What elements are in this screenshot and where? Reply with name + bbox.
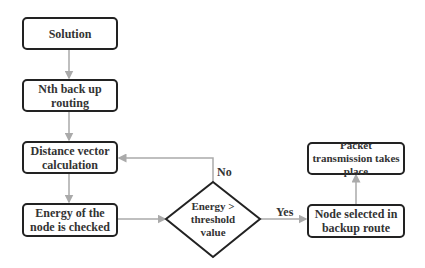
packet-transmission-node: Packet transmission takes place (307, 142, 405, 175)
yes-label: Yes (276, 205, 293, 220)
nth-backup-routing-node: Nth back up routing (22, 79, 118, 112)
distance-vector-node: Distance vector calculation (22, 141, 118, 174)
no-label: No (217, 165, 232, 180)
node-selected-node: Node selected in backup route (307, 204, 405, 238)
solution-node: Solution (22, 17, 118, 50)
energy-checked-node: Energy of the node is checked (22, 203, 118, 237)
decision-text: Energy > threshold value (183, 200, 243, 239)
